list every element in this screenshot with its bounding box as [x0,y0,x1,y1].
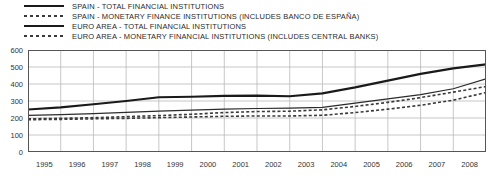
x-axis-tick: 1996 [69,160,86,169]
legend-item-euro-total: EURO AREA - TOTAL FINANCIAL INSTITUTIONS [0,21,246,31]
legend-label: SPAIN - MONETARY FINANCE INSTITUTIONS (I… [72,12,359,21]
line-solid-icon [24,22,64,30]
legend-label: EURO AREA - MONETARY FINANCIAL INSTITUTI… [72,32,378,41]
x-axis-tick: 1998 [134,160,151,169]
line-solid-icon [24,2,64,10]
legend-item-spain-total: SPAIN - TOTAL FINANCIAL INSTITUTIONS [0,1,224,11]
y-axis-labels: 6005004003002001000 [0,42,26,179]
x-axis-tick: 1997 [101,160,118,169]
legend-item-euro-mfi: EURO AREA - MONETARY FINANCIAL INSTITUTI… [0,31,378,41]
x-axis-tick: 2008 [461,160,478,169]
legend-label: SPAIN - TOTAL FINANCIAL INSTITUTIONS [72,2,224,11]
x-axis-tick: 2007 [429,160,446,169]
chart-legend: SPAIN - TOTAL FINANCIAL INSTITUTIONS SPA… [0,0,491,42]
x-axis-tick: 1999 [167,160,184,169]
y-axis-tick: 300 [10,97,23,106]
legend-label: EURO AREA - TOTAL FINANCIAL INSTITUTIONS [72,22,246,31]
plot-area [28,50,486,152]
plot-wrapper: 6005004003002001000 19951996199719981999… [0,42,491,179]
x-axis-tick: 2003 [298,160,315,169]
x-axis-tick: 2004 [330,160,347,169]
x-axis-tick: 1995 [36,160,53,169]
line-dashed-icon [24,12,64,20]
chart-svg [28,50,486,152]
x-axis-tick: 2005 [363,160,380,169]
y-axis-tick: 400 [10,80,23,89]
y-axis-tick: 0 [19,148,23,157]
line-dashed-icon [24,32,64,40]
chart-container: SPAIN - TOTAL FINANCIAL INSTITUTIONS SPA… [0,0,491,179]
x-axis-tick: 2006 [396,160,413,169]
y-axis-tick: 500 [10,63,23,72]
y-axis-tick: 100 [10,131,23,140]
gridlines [28,50,486,152]
y-axis-tick: 200 [10,114,23,123]
x-axis-tick: 2002 [265,160,282,169]
x-axis-labels: 1995199619971998199920002001200220032004… [28,154,486,178]
x-axis-tick: 2001 [232,160,249,169]
x-axis-tick: 2000 [200,160,217,169]
y-axis-tick: 600 [10,46,23,55]
legend-item-spain-mfi: SPAIN - MONETARY FINANCE INSTITUTIONS (I… [0,11,359,21]
